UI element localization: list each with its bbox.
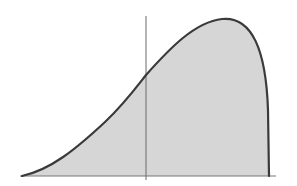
skewed-distribution-chart <box>0 0 297 186</box>
